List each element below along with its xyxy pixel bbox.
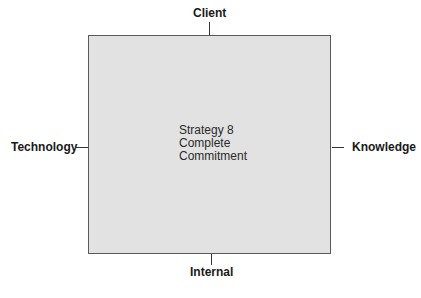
axis-tick-right xyxy=(332,147,344,148)
axis-label-right: Knowledge xyxy=(352,140,416,154)
axis-tick-left xyxy=(75,147,88,148)
axis-label-bottom: Internal xyxy=(190,265,233,279)
axis-label-top: Client xyxy=(193,6,226,20)
strategy-line-3: Commitment xyxy=(179,150,247,163)
axis-tick-top xyxy=(209,22,210,35)
axis-tick-bottom xyxy=(211,254,212,265)
strategy-label: Strategy 8 Complete Commitment xyxy=(179,124,247,163)
axis-label-left: Technology xyxy=(11,140,77,154)
